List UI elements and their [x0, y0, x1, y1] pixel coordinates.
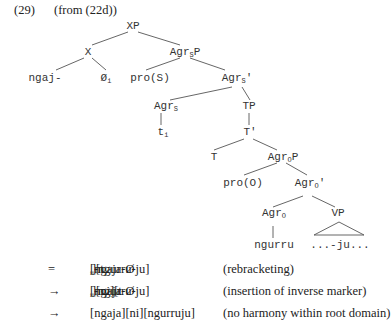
- node-t-i: ti: [158, 127, 169, 139]
- node-null-i: Øi: [101, 73, 112, 85]
- derivation-note: (insertion of inverse marker): [223, 284, 366, 299]
- edge-agrobar-agro: [273, 196, 303, 207]
- node-agrop: AgrOP: [268, 152, 299, 164]
- node-agrs: AgrS: [154, 101, 178, 113]
- node-tp: TP: [242, 101, 255, 112]
- derivation-note: (no harmony within root domain): [223, 306, 390, 321]
- derivation-row-1: = [ngaja-Øi][ti-ngurru-ju] (rebracketing…: [0, 262, 391, 278]
- edge-x-null: [92, 58, 106, 70]
- derivation-row-3: → [ngaja][ni][ngurruju] (no harmony with…: [0, 306, 391, 322]
- node-ngaj: ngaj-: [28, 73, 61, 84]
- node-t: T: [211, 152, 218, 163]
- edge-x-ngaj: [56, 58, 84, 70]
- edge-agrsbar-agrs: [170, 87, 232, 100]
- node-agrs-bar: AgrS': [222, 73, 253, 85]
- edge-tbar-agrop: [253, 139, 277, 150]
- vp-triangle: [314, 222, 364, 235]
- node-agro: AgrO: [262, 208, 286, 220]
- node-pro-s: pro(S): [130, 73, 170, 84]
- node-vp: VP: [331, 208, 344, 219]
- edge-agrop-proo: [244, 163, 277, 175]
- derivation-form: [ngaja-Øi][ni][ti-ngurru-ju]: [90, 284, 94, 299]
- derivation-operator: →: [48, 306, 61, 321]
- edge-xp-x: [92, 32, 128, 45]
- node-agrsp: AgrSP: [170, 47, 201, 59]
- edge-xp-agrsp: [138, 32, 180, 45]
- node-agro-bar: AgrO': [295, 178, 326, 190]
- edge-agrsp-agrsbar: [190, 58, 225, 70]
- derivation-row-2: → [ngaja-Øi][ni][ti-ngurru-ju] (insertio…: [0, 284, 391, 300]
- edge-agrop-agrobar: [286, 163, 307, 175]
- edge-agrsp-pros: [146, 58, 180, 70]
- derivation-note: (rebracketing): [223, 262, 294, 277]
- node-xp: XP: [126, 21, 139, 32]
- node-x: X: [85, 47, 92, 58]
- node-ngurru: ngurru: [254, 240, 294, 251]
- node-t-bar: T': [243, 127, 256, 138]
- derivation-form: [ngaja-Øi][ti-ngurru-ju]: [90, 262, 94, 277]
- edge-tbar-t: [214, 139, 244, 150]
- derivation-operator: =: [48, 262, 55, 277]
- derivation-operator: →: [48, 284, 61, 299]
- edge-agrsbar-tp: [242, 87, 250, 100]
- node-pro-o: pro(O): [223, 178, 263, 189]
- edge-agrobar-vp: [312, 196, 335, 207]
- node-ju: ...-ju...: [310, 240, 369, 251]
